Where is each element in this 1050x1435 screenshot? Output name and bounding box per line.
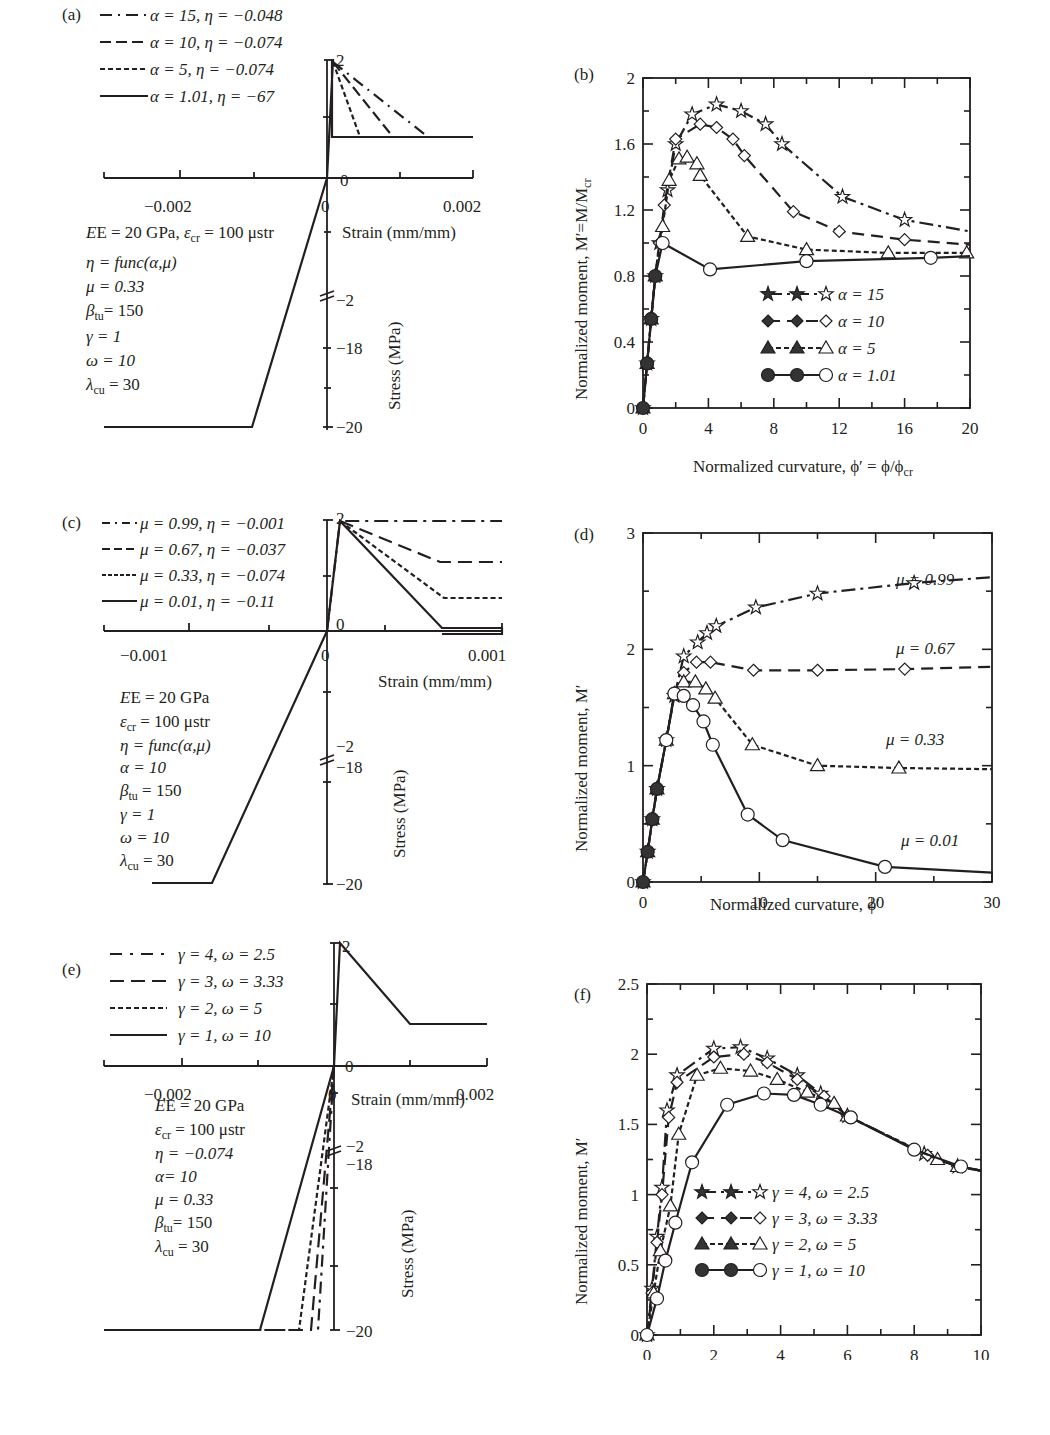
panel-f-moment-curvature: (f) 024681000.511.522.5 γ = 4, ω = 2.5γ …	[530, 930, 1050, 1360]
x-tick-label: 30	[984, 893, 1001, 912]
svg-text:α = 5: α = 5	[838, 339, 875, 358]
legend-item: γ = 3, ω = 3.33	[696, 1209, 877, 1228]
y-tick-label: 0.5	[618, 1256, 639, 1275]
y-tick-label: 0	[345, 1057, 354, 1076]
legend-item: γ = 4, ω = 2.5	[695, 1183, 869, 1202]
y-tick-label: 0	[631, 1326, 640, 1345]
y-axis	[327, 943, 341, 1330]
svg-text:EE = 20 GPa: EE = 20 GPa	[119, 688, 210, 707]
data-series	[636, 97, 974, 415]
svg-text:γ = 1: γ = 1	[86, 327, 121, 346]
y-tick-label: 1	[631, 1186, 640, 1205]
y-tick-label: −18	[346, 1155, 373, 1174]
stress-strain-curves	[104, 60, 473, 427]
legend-item: γ = 1, ω = 10	[696, 1261, 866, 1280]
series-diamond	[637, 656, 992, 888]
panel-c-stress-strain: (c) μ = 0.99, η = −0.001 μ = 0.67, η = −…	[0, 490, 530, 910]
panel-label: (a)	[62, 5, 81, 24]
legend: γ = 4, ω = 2.5γ = 3, ω = 3.33γ = 2, ω = …	[695, 1183, 878, 1280]
svg-text:λcu = 30: λcu = 30	[119, 851, 174, 873]
x-axis-label: Strain (mm/mm)	[342, 223, 456, 242]
svg-text:βtu= 150: βtu= 150	[85, 301, 143, 323]
x-tick-label: 0	[639, 893, 648, 912]
y-tick-label: −20	[336, 875, 363, 894]
x-tick-label: 0	[639, 419, 648, 438]
legend-item: μ = 0.67, η = −0.037	[139, 540, 286, 559]
panel-a-stress-strain: (a) α = 15, η = −0.048 α = 10, η = −0.07…	[0, 0, 530, 470]
svg-text:ω = 10: ω = 10	[86, 351, 135, 370]
parameter-block: EE = 20 GPa εcr = 100 μstr η = func(α,μ)…	[119, 688, 211, 873]
y-tick-label: 0.4	[614, 333, 636, 352]
x-tick-label: 8	[910, 1346, 919, 1360]
series-annotation: μ = 0.99	[895, 570, 955, 589]
x-axis-label: Normalized curvature, ϕ′	[710, 895, 880, 914]
y-tick-label: −2	[336, 291, 354, 310]
parameter-block: EE = 20 GPa εcr = 100 μstr η = −0.074 α=…	[154, 1096, 245, 1259]
svg-text:μ = 0.33: μ = 0.33	[85, 277, 144, 296]
panel-label: (c)	[62, 513, 81, 532]
svg-text:βtu= 150: βtu= 150	[154, 1213, 212, 1235]
y-tick-label: 0	[340, 171, 349, 190]
x-tick-label: −0.001	[120, 646, 168, 665]
x-tick-label: −0.002	[144, 197, 192, 216]
legend-item: γ = 1, ω = 10	[178, 1026, 271, 1045]
x-tick-label: 2	[710, 1346, 719, 1360]
y-tick-label: 2	[631, 1045, 640, 1064]
x-tick-label: 16	[896, 419, 913, 438]
svg-text:α= 10: α= 10	[155, 1167, 197, 1186]
legend-item: γ = 4, ω = 2.5	[178, 945, 275, 964]
x-tick-label: 0.001	[468, 646, 506, 665]
legend-item: α = 5, η = −0.074	[150, 60, 275, 79]
svg-text:η = func(α,μ): η = func(α,μ)	[86, 253, 177, 272]
series-circle	[637, 237, 971, 415]
x-tick-label: 0	[321, 646, 330, 665]
y-tick-label: −2	[336, 737, 354, 756]
y-axis-label: Stress (MPa)	[385, 322, 404, 410]
y-tick-label: 1.6	[614, 135, 635, 154]
panel-e-stress-strain: (e) γ = 4, ω = 2.5 γ = 3, ω = 3.33 γ = 2…	[0, 930, 530, 1350]
legend	[110, 954, 167, 1035]
svg-text:λcu = 30: λcu = 30	[85, 375, 140, 397]
legend-item: α = 15	[761, 285, 884, 304]
legend-item: α = 10, η = −0.074	[150, 33, 283, 52]
panel-label: (f)	[574, 985, 591, 1004]
legend-item: α = 10	[762, 312, 884, 331]
x-tick-label: 8	[770, 419, 779, 438]
y-tick-label: 0.8	[614, 267, 635, 286]
y-tick-label: 0	[627, 399, 636, 418]
series-annotation: μ = 0.67	[895, 639, 956, 658]
panel-label: (b)	[574, 65, 594, 84]
x-axis	[104, 170, 473, 178]
series-circle	[637, 687, 993, 888]
x-tick-label: 20	[962, 419, 979, 438]
x-axis-label: Strain (mm/mm)	[378, 672, 492, 691]
legend: α = 15α = 10α = 5α = 1.01	[761, 285, 897, 385]
legend-item: μ = 0.99, η = −0.001	[139, 514, 285, 533]
x-tick-label: 0.002	[443, 197, 481, 216]
y-axis-label: Normalized moment, M′	[572, 1137, 591, 1305]
legend-item: α = 1.01	[762, 366, 897, 385]
x-axis-label: Strain (mm/mm)	[351, 1090, 465, 1109]
y-tick-label: −18	[336, 758, 363, 777]
y-tick-label: 2	[627, 640, 636, 659]
y-tick-label: −18	[336, 339, 363, 358]
y-tick-label: 1	[627, 757, 636, 776]
panel-b-moment-curvature: (b) 04812162000.40.81.21.62 α = 15α = 10…	[530, 0, 1050, 490]
svg-text:η = −0.074: η = −0.074	[155, 1144, 234, 1163]
y-axis-label: Stress (MPa)	[390, 770, 409, 858]
legend	[100, 15, 148, 96]
legend-item: γ = 3, ω = 3.33	[178, 972, 283, 991]
x-tick-label: 0	[321, 197, 330, 216]
x-axis-label: Normalized curvature, ϕ′ = ϕ/ϕcr	[693, 457, 913, 479]
svg-text:μ = 0.33: μ = 0.33	[154, 1190, 213, 1209]
svg-text:γ = 3, ω = 3.33: γ = 3, ω = 3.33	[772, 1209, 877, 1228]
svg-text:γ = 4, ω = 2.5: γ = 4, ω = 2.5	[772, 1183, 869, 1202]
x-tick-label: 4	[776, 1346, 785, 1360]
panel-label: (e)	[62, 960, 81, 979]
svg-text:α = 15: α = 15	[838, 285, 884, 304]
y-tick-label: 1.5	[618, 1115, 639, 1134]
svg-text:η = func(α,μ): η = func(α,μ)	[120, 736, 211, 755]
y-tick-label: 2	[627, 69, 636, 88]
y-tick-label: 0	[627, 873, 636, 892]
y-tick-label: −20	[336, 418, 363, 437]
